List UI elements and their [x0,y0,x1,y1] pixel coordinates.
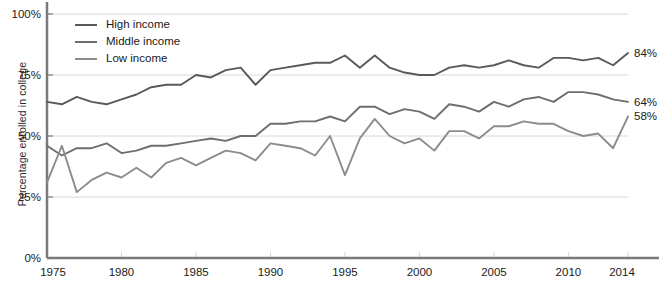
y-tick-label: 50% [1,130,41,142]
y-axis-tick-labels: 0%25%50%75%100% [0,0,41,291]
legend-label-middle-income: Middle income [106,36,180,48]
legend-label-low-income: Low income [106,53,167,65]
x-tick-label: 1980 [109,266,135,278]
data-series-lines [47,53,628,192]
legend-item-middle-income[interactable]: Middle income [75,33,180,50]
y-tick-label: 100% [1,8,41,20]
x-tick-label: 1990 [258,266,284,278]
end-label-middle-income: 64% [634,96,657,108]
y-tick-label: 25% [1,191,41,203]
end-label-low-income: 58% [634,110,657,122]
x-tick-label: 2000 [407,266,433,278]
x-tick-label: 1975 [40,266,66,278]
end-label-high-income: 84% [634,47,657,59]
x-tick-label: 1985 [183,266,209,278]
y-tick-label: 0% [1,252,41,264]
legend-label-high-income: High income [106,19,170,31]
x-tick-label: 2014 [609,266,635,278]
x-tick-label: 2005 [481,266,507,278]
legend-swatch-middle-income [75,41,97,43]
series-line-low-income [47,116,628,192]
legend: High income Middle income Low income [75,16,180,67]
legend-swatch-low-income [75,58,97,60]
college-enrollment-line-chart: Percentage enrolled in college 0%25%50%7… [0,0,659,291]
legend-item-high-income[interactable]: High income [75,16,180,33]
y-tick-label: 75% [1,69,41,81]
x-tick-label: 2010 [556,266,582,278]
legend-swatch-high-income [75,24,97,26]
x-tick-label: 1995 [332,266,358,278]
legend-item-low-income[interactable]: Low income [75,50,180,67]
